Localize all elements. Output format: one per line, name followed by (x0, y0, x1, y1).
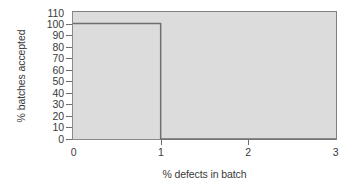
x-tick-mark (248, 140, 249, 145)
y-tick-label: 90 (34, 30, 64, 40)
y-tick-label: 100 (34, 19, 64, 29)
y-axis-title: % batches accepted (14, 6, 28, 146)
x-tick-mark (161, 140, 162, 145)
y-tick-label: 0 (34, 134, 64, 144)
x-tick-label: 2 (238, 146, 258, 158)
x-tick-label: 3 (326, 146, 346, 158)
chart-container: % batches accepted 010203040506070809010… (0, 0, 354, 189)
y-tick-label: 20 (34, 111, 64, 121)
x-tick-label: 1 (151, 146, 171, 158)
y-tick-label: 30 (34, 99, 64, 109)
x-axis-title: % defects in batch (72, 168, 337, 181)
y-tick-label: 50 (34, 76, 64, 86)
series-layer (73, 12, 336, 139)
y-axis-tick-labels: 0102030405060708090100110 (34, 11, 64, 140)
series-line (73, 24, 336, 139)
x-axis-tick-marks (72, 140, 337, 145)
x-axis-tick-labels: 0123 (72, 146, 337, 160)
x-tick-label: 0 (64, 146, 84, 158)
y-tick-label: 80 (34, 42, 64, 52)
y-tick-label: 10 (34, 122, 64, 132)
y-tick-label: 70 (34, 53, 64, 63)
plot-area (72, 11, 337, 140)
y-tick-label: 60 (34, 65, 64, 75)
y-tick-label: 40 (34, 88, 64, 98)
y-tick-label: 110 (34, 8, 64, 18)
